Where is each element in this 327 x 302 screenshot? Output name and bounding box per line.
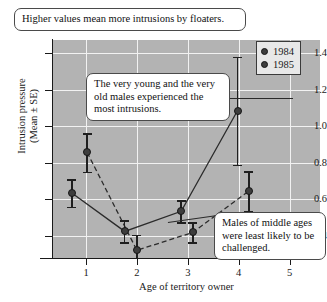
- circle-marker-icon: [261, 61, 268, 68]
- error-bar-cap: [244, 171, 253, 173]
- data-point-1985: [245, 187, 253, 195]
- x-tick: [86, 258, 87, 265]
- y-axis-label-line1: Intrusion pressure: [16, 36, 28, 196]
- data-point-1984: [234, 107, 242, 115]
- y-tick-label: 1.2: [285, 85, 327, 95]
- error-bar-cap: [67, 179, 76, 181]
- error-bar-cap: [177, 222, 186, 224]
- x-tick-label: 1: [76, 267, 96, 278]
- y-tick: [45, 53, 53, 54]
- data-point-1984: [68, 189, 76, 197]
- y-axis-line: [52, 39, 53, 259]
- chart-figure: 0.40.60.81.01.21.4 12345 Age of territor…: [0, 0, 327, 302]
- legend-label: 1984: [273, 45, 294, 58]
- legend-label: 1985: [273, 58, 294, 71]
- x-tick-label: 4: [229, 267, 249, 278]
- y-tick: [45, 126, 53, 127]
- x-axis-label: Age of territory owner: [53, 281, 320, 292]
- error-bar-cap: [188, 242, 197, 244]
- error-bar-cap: [67, 207, 76, 209]
- x-tick: [137, 258, 138, 265]
- y-tick-label: 0.6: [285, 194, 327, 204]
- error-bar-cap: [120, 220, 129, 222]
- error-bar-cap: [177, 200, 186, 202]
- x-tick-label: 5: [280, 267, 300, 278]
- error-bar-cap: [233, 57, 242, 59]
- y-tick: [45, 199, 53, 200]
- error-bar-cap: [83, 172, 92, 174]
- error-bar-cap: [120, 242, 129, 244]
- legend-item-1985: 1985: [261, 58, 294, 71]
- legend: 1984 1985: [256, 41, 301, 75]
- legend-item-1984: 1984: [261, 45, 294, 58]
- error-bar-cap: [83, 133, 92, 135]
- error-bar-cap: [132, 235, 141, 237]
- callout-middle: The very young and the very old males ex…: [86, 73, 230, 121]
- y-tick: [45, 90, 53, 91]
- circle-marker-icon: [261, 48, 268, 55]
- y-axis-label-line2: (Mean ± SE): [28, 36, 40, 196]
- callout-top: Higher values mean more intrusions by fl…: [14, 8, 246, 31]
- callout-leader-line: [230, 98, 293, 99]
- y-tick: [45, 163, 53, 164]
- x-tick: [188, 258, 189, 265]
- y-axis-label: Intrusion pressure (Mean ± SE): [16, 36, 40, 196]
- x-tick-label: 2: [127, 267, 147, 278]
- x-tick-label: 3: [178, 267, 198, 278]
- y-tick-label: 0.8: [285, 158, 327, 168]
- error-bar-cap: [188, 222, 197, 224]
- y-tick-label: 1.0: [285, 121, 327, 131]
- error-bar-cap: [233, 165, 242, 167]
- callout-bottom: Males of middle ages were least likely t…: [214, 212, 326, 260]
- y-tick: [45, 236, 53, 237]
